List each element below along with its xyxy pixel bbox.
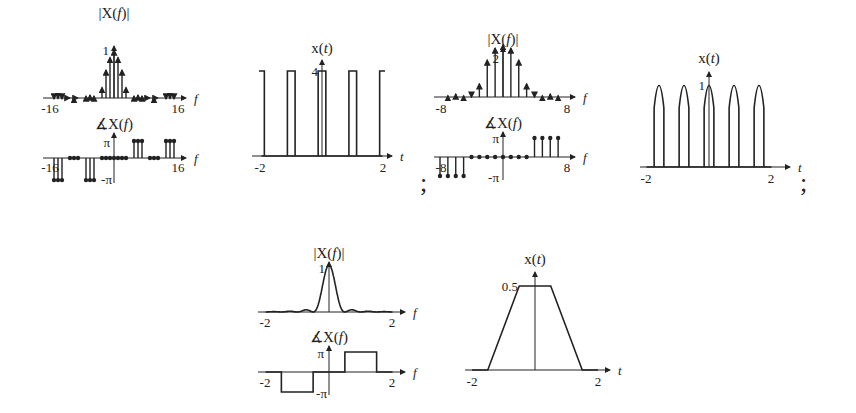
plot-title: x(t) bbox=[698, 50, 720, 67]
plot5-phase-spectrum: f∡X(f)-22π-π bbox=[258, 329, 419, 401]
figure-canvas: f|X(f)|-16161 f∡X(f)-1616π-π tx(t)-224 f… bbox=[0, 0, 856, 413]
axis-variable: f bbox=[583, 150, 589, 165]
axis-label: 2 bbox=[389, 315, 396, 330]
axis-label: 1 bbox=[319, 261, 326, 276]
axis-label: 16 bbox=[172, 160, 186, 175]
plot-title: |X(f)| bbox=[98, 5, 129, 22]
plot4-time-signal: tx(t)-221 bbox=[640, 50, 802, 186]
plot-title: ∡X(f) bbox=[484, 115, 522, 132]
axis-label: π bbox=[103, 135, 110, 150]
plot-title: |X(f)| bbox=[313, 245, 344, 262]
axis-label: -2 bbox=[641, 171, 652, 186]
axis-variable: f bbox=[413, 305, 419, 320]
axis-label: 2 bbox=[380, 160, 387, 175]
plot-title: ∡X(f) bbox=[95, 116, 133, 133]
axis-label: -2 bbox=[467, 374, 478, 389]
axis-label: -π bbox=[101, 172, 112, 187]
axis-label: π bbox=[317, 346, 324, 361]
axis-label: 1 bbox=[699, 78, 706, 93]
axis-label: -8 bbox=[436, 101, 447, 116]
axis-label: 2 bbox=[595, 374, 602, 389]
axis-label: 16 bbox=[172, 101, 186, 116]
plot1-magnitude-spectrum: f|X(f)|-16161 bbox=[41, 5, 200, 116]
axis-label: 1 bbox=[103, 43, 110, 58]
axis-label: 2 bbox=[389, 375, 396, 390]
axis-label: -8 bbox=[436, 160, 447, 175]
axis-label: -π bbox=[316, 386, 327, 401]
axis-label: -16 bbox=[41, 101, 59, 116]
axis-label: -16 bbox=[41, 160, 59, 175]
axis-label: -π bbox=[488, 170, 499, 185]
axis-label: 2 bbox=[768, 171, 775, 186]
axis-variable: f bbox=[413, 365, 419, 380]
axis-label: 0.5 bbox=[502, 279, 518, 294]
plot3-magnitude-spectrum: f|X(f)|-882 bbox=[434, 31, 589, 116]
axis-variable: t bbox=[400, 149, 404, 164]
axis-label: -2 bbox=[260, 375, 271, 390]
separator-semicolon-2: ; bbox=[800, 168, 807, 198]
plot-title: x(t) bbox=[311, 40, 333, 57]
axis-label: 8 bbox=[564, 101, 571, 116]
axis-label: π bbox=[492, 131, 499, 146]
separator-semicolon-1: ; bbox=[420, 168, 427, 198]
axis-variable: f bbox=[583, 90, 589, 105]
plot5-magnitude-spectrum: f|X(f)|-221 bbox=[258, 245, 419, 330]
plot6-time-signal: tx(t)-220.5 bbox=[465, 251, 622, 389]
plot1-phase-spectrum: f∡X(f)-1616π-π bbox=[41, 116, 200, 187]
axis-label: -2 bbox=[260, 315, 271, 330]
axis-label: 8 bbox=[564, 160, 571, 175]
plot2-time-signal: tx(t)-224 bbox=[252, 40, 404, 175]
axis-variable: f bbox=[194, 151, 200, 166]
plot-title: ∡X(f) bbox=[310, 329, 348, 346]
axis-variable: t bbox=[618, 363, 622, 378]
plot3-phase-spectrum: f∡X(f)-88π-π bbox=[434, 115, 589, 185]
axis-variable: f bbox=[194, 91, 200, 106]
axis-label: -2 bbox=[255, 160, 266, 175]
plot-title: x(t) bbox=[524, 251, 546, 268]
